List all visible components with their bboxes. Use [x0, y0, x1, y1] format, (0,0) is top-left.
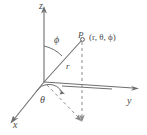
figure-canvas [0, 0, 147, 135]
y-axis-label: y [127, 96, 131, 106]
y-axis [44, 82, 139, 91]
radius-segment [44, 40, 82, 82]
phi-angle-label: ϕ [54, 35, 59, 45]
projection-dashed-line [47, 85, 82, 122]
point-coordinates-label: (r, θ, ϕ) [89, 33, 116, 42]
z-axis-label: z [39, 1, 43, 11]
radius-label: r [66, 62, 70, 71]
point-name-label: P [78, 31, 84, 40]
theta-angle-label: θ [40, 95, 45, 105]
phi-arc [44, 46, 62, 56]
z-axis [41, 6, 47, 82]
spherical-coordinates-figure: z y x ϕ θ r P (r, θ, ϕ) [0, 0, 147, 135]
vertical-drop-dashed-line [79, 42, 84, 122]
x-axis-label: x [13, 120, 17, 130]
